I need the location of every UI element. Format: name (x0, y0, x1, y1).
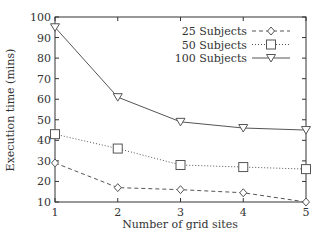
y-tick-label: 70 (37, 73, 51, 86)
x-tick-label: 4 (240, 206, 247, 219)
diamond-marker-icon (303, 198, 310, 206)
line-chart: 102030405060708090100 12345 25 Subjects5… (0, 0, 323, 242)
series-50-subjects (51, 130, 311, 174)
x-axis-label: Number of grid sites (122, 218, 238, 231)
diamond-marker-icon (52, 159, 59, 167)
triangle-down-marker-icon (113, 94, 122, 102)
square-marker-icon (113, 144, 122, 153)
y-tick-label: 50 (37, 114, 51, 127)
x-tick-label: 2 (114, 206, 121, 219)
legend-label: 100 Subjects (175, 52, 248, 65)
legend: 25 Subjects50 Subjects100 Subjects (175, 25, 290, 65)
diamond-marker-icon (177, 186, 184, 194)
y-axis-label: Execution time (mins) (4, 49, 17, 172)
y-tick-label: 80 (37, 52, 51, 65)
y-tick-label: 30 (37, 155, 51, 168)
square-marker-icon (302, 165, 311, 174)
legend-item: 100 Subjects (175, 52, 290, 65)
y-tick-label: 10 (37, 196, 51, 209)
legend-item: 25 Subjects (182, 25, 290, 38)
legend-label: 50 Subjects (182, 39, 248, 52)
y-tick-label: 20 (37, 175, 51, 188)
diamond-marker-icon (268, 27, 275, 35)
legend-item: 50 Subjects (182, 39, 290, 52)
y-tick-label: 90 (37, 32, 51, 45)
y-tick-label: 100 (30, 11, 51, 24)
y-axis-ticks: 102030405060708090100 (30, 11, 306, 209)
square-marker-icon (267, 40, 276, 49)
x-tick-label: 1 (52, 206, 59, 219)
legend-label: 25 Subjects (182, 25, 248, 38)
x-tick-label: 5 (303, 206, 310, 219)
square-marker-icon (239, 163, 248, 172)
square-marker-icon (51, 130, 60, 139)
diamond-marker-icon (240, 189, 247, 197)
diamond-marker-icon (114, 184, 121, 192)
y-tick-label: 40 (37, 134, 51, 147)
square-marker-icon (176, 161, 185, 170)
y-tick-label: 60 (37, 93, 51, 106)
